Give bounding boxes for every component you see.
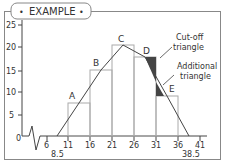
svg-text:31: 31 xyxy=(151,141,161,150)
cutoff-leader-line xyxy=(160,47,172,58)
svg-text:E: E xyxy=(169,84,175,94)
histogram-bars xyxy=(68,45,178,136)
title-dot-left: • xyxy=(19,8,24,17)
bar-b xyxy=(90,70,112,136)
chart-frame: • EXAMPLE • 25 20 15 10 5 0 6 8.5 11 16 … xyxy=(0,0,225,165)
bar-e xyxy=(156,96,178,136)
svg-text:10: 10 xyxy=(6,88,16,97)
svg-text:C: C xyxy=(118,34,124,44)
additional-label-1: Additional xyxy=(177,62,217,71)
svg-text:11: 11 xyxy=(63,141,73,150)
cutoff-label-1: Cut-off xyxy=(176,33,204,42)
cutoff-label-2: triangle xyxy=(173,43,204,52)
additional-label-2: triangle xyxy=(180,72,211,81)
svg-text:20: 20 xyxy=(6,43,16,52)
bar-a xyxy=(68,103,90,136)
svg-text:D: D xyxy=(143,46,150,56)
svg-text:5: 5 xyxy=(9,111,14,120)
svg-text:15: 15 xyxy=(6,67,16,76)
histogram-chart: • EXAMPLE • 25 20 15 10 5 0 6 8.5 11 16 … xyxy=(0,0,225,165)
svg-text:0: 0 xyxy=(16,134,21,143)
svg-text:A: A xyxy=(69,91,76,101)
title-dot-right: • xyxy=(79,8,84,17)
svg-text:26: 26 xyxy=(129,141,139,150)
svg-text:41: 41 xyxy=(195,141,205,150)
svg-text:21: 21 xyxy=(107,141,117,150)
bar-c xyxy=(112,45,134,136)
svg-text:8.5: 8.5 xyxy=(51,150,64,159)
y-tick-labels: 25 20 15 10 5 0 xyxy=(6,21,22,143)
chart-title: EXAMPLE xyxy=(29,6,76,17)
svg-text:B: B xyxy=(93,58,99,68)
svg-text:38.5: 38.5 xyxy=(182,150,200,159)
svg-text:25: 25 xyxy=(6,21,16,30)
svg-text:36: 36 xyxy=(173,141,183,150)
svg-text:6: 6 xyxy=(44,141,49,150)
svg-text:16: 16 xyxy=(85,141,95,150)
x-tick-labels: 6 8.5 11 16 21 26 31 36 38.5 41 xyxy=(44,141,205,159)
